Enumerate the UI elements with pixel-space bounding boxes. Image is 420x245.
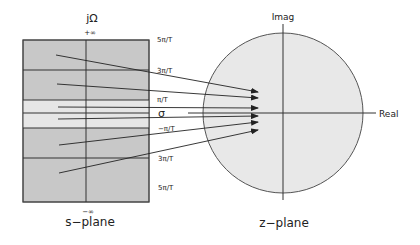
z-plane-title: z−plane [259, 216, 309, 230]
plus-infinity-label: +∞ [84, 29, 96, 37]
sigma-label: σ [158, 107, 165, 120]
s-plane-title: s−plane [65, 215, 115, 229]
strip-label-neg-5pi: 5π/T [158, 184, 174, 192]
strip-label-5pi: 5π/T [157, 36, 173, 44]
real-label: Real [379, 109, 398, 119]
strip-label-neg-3pi: 3π/T [158, 155, 174, 163]
z-plane: Imag Real z−plane [188, 12, 398, 230]
s-to-z-mapping-diagram: jΩ +∞ −∞ 5π/T 3π/T π/T σ −π/T 3π/T 5π/T … [0, 0, 420, 245]
imag-label: Imag [272, 12, 295, 22]
strip-label-pi: π/T [157, 96, 169, 104]
j-omega-label: jΩ [85, 12, 97, 25]
s-plane: jΩ +∞ −∞ 5π/T 3π/T π/T σ −π/T 3π/T 5π/T … [23, 12, 175, 229]
